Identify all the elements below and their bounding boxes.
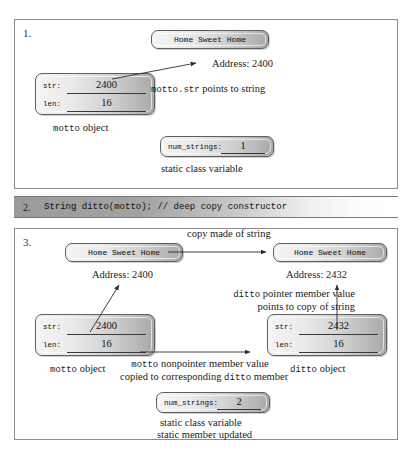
- string-literal-box-original: Home Sweet Home: [65, 243, 183, 262]
- panel-step-3: 3. Home Sweet Home Home Sweet Home copy …: [14, 228, 398, 440]
- static-variable-value-1: 1: [221, 139, 265, 154]
- panel-step-1: 1. Home Sweet Home Address: 2400 str: 24…: [14, 19, 398, 189]
- figure-canvas: 1. Home Sweet Home Address: 2400 str: 24…: [0, 0, 413, 458]
- address-label-original: Address: 2400: [92, 269, 153, 280]
- pointer-note-1: motto.str points to string: [151, 83, 265, 95]
- static-variable-label-3: num_strings:: [164, 399, 218, 407]
- address-label-1: Address: 2400: [212, 58, 273, 69]
- panel-1-number: 1.: [23, 27, 31, 39]
- static-variable-box-1: num_strings: 1: [160, 136, 274, 157]
- ditto-pointer-note-line-1: ditto pointer member value: [155, 288, 355, 300]
- string-literal-box-copy: Home Sweet Home: [273, 243, 387, 262]
- motto-field-str-3: str: 2400: [43, 318, 146, 336]
- static-variable-caption-3-line-2: static member updated: [157, 429, 252, 440]
- string-literal-text-1: Home Sweet Home: [152, 35, 268, 44]
- string-literal-box-1: Home Sweet Home: [151, 30, 269, 49]
- field-value-len: 16: [299, 336, 378, 353]
- caption-mono-ditto: ditto: [290, 365, 317, 375]
- field-label-str: str:: [275, 323, 293, 331]
- copy-made-of-string-label: copy made of string: [187, 228, 271, 239]
- copy-note-pre: copied to corresponding: [120, 371, 224, 382]
- motto-field-len-3: len: 16: [43, 336, 146, 354]
- field-label-str: str:: [43, 82, 61, 90]
- field-value-str: 2400: [67, 318, 146, 335]
- motto-field-len-1: len: 16: [43, 95, 146, 113]
- pointer-note-rest: points to string: [200, 83, 266, 94]
- field-label-len: len:: [43, 100, 61, 108]
- copy-note-mono-ditto: ditto: [224, 373, 251, 383]
- caption-mono-motto: motto: [53, 124, 80, 134]
- field-label-len: len:: [43, 341, 61, 349]
- panel-3-number: 3.: [23, 236, 31, 248]
- motto-object-caption-1: motto object: [53, 122, 108, 134]
- ditto-pointer-note-line-2: points to copy of string: [155, 301, 355, 312]
- ditto-object-caption: ditto object: [290, 363, 345, 375]
- ditto-object-box: str: 2432 len: 16: [267, 314, 387, 356]
- motto-field-str-1: str: 2400: [43, 77, 146, 95]
- copy-note-rest: nonpointer member value: [158, 358, 269, 369]
- string-literal-text-original: Home Sweet Home: [66, 248, 182, 257]
- copy-note-line-1: motto nonpointer member value: [125, 358, 275, 370]
- copy-note-mono-motto: motto: [131, 360, 158, 370]
- ditto-field-len: len: 16: [275, 336, 378, 354]
- ditto-note-mono: ditto: [233, 290, 260, 300]
- static-variable-box-3: num_strings: 2: [156, 392, 270, 413]
- panel-2-number: 2.: [23, 202, 31, 213]
- motto-object-caption-3: motto object: [50, 363, 105, 375]
- motto-object-box-3: str: 2400 len: 16: [35, 314, 155, 356]
- string-literal-text-copy: Home Sweet Home: [274, 248, 386, 257]
- caption-rest: object: [77, 363, 105, 374]
- pointer-note-mono: motto.str: [151, 85, 200, 95]
- caption-rest: object: [80, 122, 108, 133]
- copy-note-line-2: copied to corresponding ditto member: [120, 371, 282, 383]
- code-line-deep-copy-constructor: String ditto(motto); // deep copy constr…: [44, 202, 287, 212]
- ditto-field-str: str: 2432: [275, 318, 378, 336]
- caption-rest: object: [317, 363, 345, 374]
- static-variable-label-1: num_strings:: [168, 143, 222, 151]
- address-label-copy: Address: 2432: [286, 269, 347, 280]
- static-variable-value-3: 2: [217, 395, 261, 410]
- field-label-str: str:: [43, 323, 61, 331]
- field-value-str: 2432: [299, 318, 378, 335]
- field-label-len: len:: [275, 341, 293, 349]
- field-value-len: 16: [67, 336, 146, 353]
- static-variable-caption-1: static class variable: [161, 163, 243, 174]
- motto-object-box-1: str: 2400 len: 16: [35, 73, 155, 115]
- caption-mono-motto: motto: [50, 365, 77, 375]
- panel-step-2-code-band: 2. String ditto(motto); // deep copy con…: [14, 196, 398, 218]
- copy-note-post: member: [251, 371, 288, 382]
- field-value-len: 16: [67, 95, 146, 112]
- static-variable-caption-3-line-1: static class variable: [160, 417, 242, 428]
- field-value-str: 2400: [67, 77, 146, 94]
- ditto-note-rest: pointer member value: [260, 288, 355, 299]
